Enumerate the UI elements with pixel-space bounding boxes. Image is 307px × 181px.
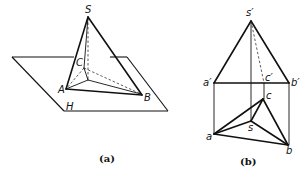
label-C: C: [76, 57, 83, 68]
figure-b: s′ a′ b′ c′ c s a b (b): [203, 7, 300, 167]
front-view: [214, 21, 289, 83]
label-s-prime: s′: [246, 7, 254, 18]
label-H: H: [66, 101, 74, 112]
label-A: A: [57, 84, 65, 95]
label-b-prime: b′: [291, 77, 300, 88]
caption-a: (a): [99, 153, 115, 164]
pyramid-projection-diagram: S A B C H (a): [0, 0, 307, 181]
inner-edges: [66, 17, 141, 94]
label-c: c: [266, 90, 272, 101]
label-s: s: [248, 122, 253, 133]
label-B: B: [144, 92, 151, 103]
label-a-prime: a′: [203, 77, 212, 88]
figure-a: S A B C H (a): [12, 4, 168, 164]
label-a: a: [206, 131, 212, 142]
pyramid-outline: [66, 17, 142, 95]
label-S: S: [85, 4, 92, 15]
label-c-prime: c′: [265, 72, 273, 83]
hidden-edges: [66, 18, 141, 94]
label-b: b: [286, 145, 292, 156]
caption-b: (b): [240, 156, 256, 167]
